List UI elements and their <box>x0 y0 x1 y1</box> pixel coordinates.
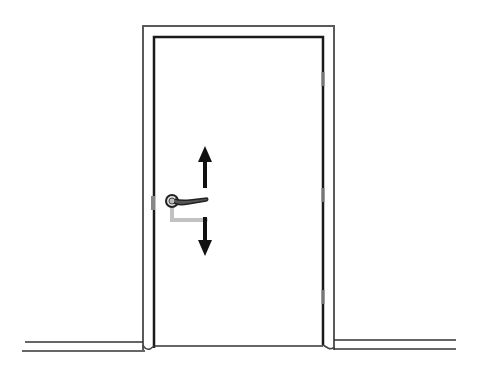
latch-plate <box>151 196 155 210</box>
baseboard-left <box>22 342 145 351</box>
baseboard-right <box>334 340 456 349</box>
door-illustration <box>0 0 481 369</box>
door-leaf <box>154 37 323 348</box>
